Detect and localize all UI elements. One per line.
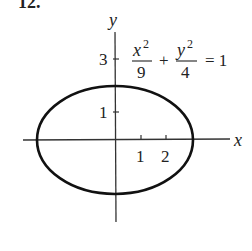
eq-x-exp: 2 <box>143 37 149 51</box>
eq-x: x <box>132 40 141 60</box>
eq-y: y <box>175 40 185 60</box>
x-axis <box>23 139 230 140</box>
eq-equals-one: = 1 <box>205 51 227 70</box>
ellipse-equation: x 2 9 + y 2 4 = 1 <box>132 37 227 82</box>
x-tick-label-2: 2 <box>161 147 170 166</box>
ellipse-graph: 12. x y 1 2 1 3 x 2 9 + y 2 4 = 1 <box>0 0 252 251</box>
eq-y-exp: 2 <box>187 37 193 51</box>
y-tick-label-1: 1 <box>99 103 108 122</box>
eq-plus: + <box>159 51 169 70</box>
eq-den-4: 4 <box>181 63 190 82</box>
figure-number: 12. <box>18 0 41 12</box>
x-tick-label-1: 1 <box>136 147 145 166</box>
y-axis-label: y <box>107 10 117 30</box>
eq-den-9: 9 <box>137 63 146 82</box>
x-axis-label: x <box>233 130 242 150</box>
y-tick-label-3: 3 <box>99 50 108 69</box>
